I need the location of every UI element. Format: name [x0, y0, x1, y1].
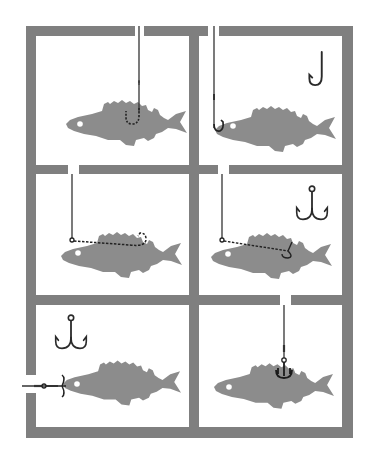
fish-eye: [226, 384, 232, 390]
frame-left-upper-segment: [26, 26, 36, 375]
panel-middle-right: [211, 174, 332, 279]
fish-eye: [74, 381, 80, 387]
panel-bottom-right: [214, 305, 334, 409]
frame-center-mullion: [189, 26, 199, 438]
frame-divider2-seg-a: [26, 295, 280, 305]
fish-eye: [75, 250, 81, 256]
treble-hook-icon: [297, 186, 328, 219]
panel-top-right: [214, 26, 336, 152]
treble-hook-in-mouth-icon: [46, 375, 66, 397]
fish-silhouette: [66, 100, 187, 146]
frame-divider1-seg-b: [79, 165, 218, 174]
frame-divider1-seg-a: [26, 165, 68, 174]
frame-top-left-segment: [26, 26, 135, 36]
fish-silhouette: [63, 361, 181, 406]
frame-top-right-segment: [219, 26, 353, 36]
frame-divider2-seg-b: [291, 295, 353, 305]
single-hook-icon: [309, 52, 321, 85]
fish-hooking-diagram: [0, 0, 371, 456]
panel-middle-left: [61, 174, 182, 278]
fish-eye: [77, 121, 83, 127]
panel-bottom-left: [22, 315, 181, 405]
fish-eye: [225, 251, 231, 257]
fish-silhouette: [214, 363, 334, 409]
treble-hook-icon: [56, 315, 87, 348]
fish-eye: [230, 123, 236, 129]
frame-divider1-seg-c: [229, 165, 353, 174]
frame-right-bar: [342, 26, 353, 438]
treble-hook-embedded-icon: [276, 362, 292, 378]
fish-silhouette: [215, 106, 336, 152]
panel-top-left: [66, 26, 187, 146]
